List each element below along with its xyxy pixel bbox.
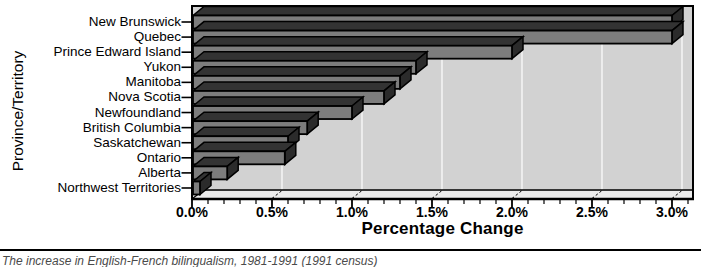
category-label-prince-edward-island: Prince Edward Island [0,44,181,60]
category-label-yukon: Yukon [0,59,181,75]
x-axis-title: Percentage Change [192,219,693,239]
bar-newfoundland-top [193,97,363,106]
bar-new-brunswick-top [193,7,683,16]
category-label-nova-scotia: Nova Scotia [0,89,181,105]
x-tick-label-0-5-: 0.5% [242,205,302,220]
bar-manitoba-top [193,67,411,76]
caption-separator-line [0,249,701,251]
category-label-manitoba: Manitoba [0,74,181,90]
bar-saskatchewan-top [193,127,299,136]
category-label-new-brunswick: New Brunswick [0,14,181,30]
bar-yukon-top [193,52,427,61]
category-label-ontario: Ontario [0,150,181,166]
figure-caption: The increase in English-French bilingual… [2,254,378,267]
category-label-alberta: Alberta [0,165,181,181]
figure: New BrunswickQuebecPrince Edward IslandY… [0,0,701,267]
bar-quebec-top [193,22,683,31]
category-label-northwest-territories: Northwest Territories [0,180,181,196]
bar-british-columbia-top [193,112,318,121]
bar-nova-scotia-top [193,82,395,91]
bar-northwest-territories [193,181,200,194]
category-label-quebec: Quebec [0,29,181,45]
x-tick-label-2-0-: 2.0% [482,205,542,220]
x-tick-label-1-5-: 1.5% [402,205,462,220]
category-label-newfoundland: Newfoundland [0,105,181,121]
y-axis-title: Province/Territory [9,41,27,181]
bar-prince-edward-island-top [193,37,523,46]
x-tick-label-2-5-: 2.5% [562,205,622,220]
axis-floor [193,191,692,198]
category-label-saskatchewan: Saskatchewan [0,135,181,151]
x-tick-label-3-0-: 3.0% [642,205,701,220]
x-tick-label-1-0-: 1.0% [322,205,382,220]
x-tick-label-0-0-: 0.0% [162,205,222,220]
category-label-british-columbia: British Columbia [0,120,181,136]
bar-ontario-top [193,142,296,151]
